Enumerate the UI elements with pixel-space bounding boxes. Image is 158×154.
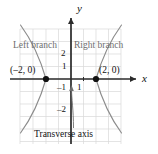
- y-tick-label-neg2: –2: [57, 104, 66, 114]
- vertex-left-dot: [43, 76, 49, 82]
- hyperbola-figure: y x 2 1 –1 –2 1 Left branch Right branch…: [0, 0, 158, 154]
- right-branch-label: Right branch: [74, 40, 123, 50]
- y-tick-label-neg1: –1: [57, 82, 66, 92]
- transverse-axis-label: Transverse axis: [34, 129, 93, 139]
- x-axis-label: x: [142, 72, 147, 84]
- y-axis-label: y: [77, 2, 82, 14]
- vertex-left-label: (–2, 0): [10, 65, 35, 75]
- vertex-right-label: (2, 0): [99, 65, 120, 75]
- y-tick-label-1: 1: [62, 61, 67, 71]
- y-tick-label-2: 2: [61, 48, 66, 58]
- vertex-right-dot: [93, 76, 99, 82]
- x-tick-label-1: 1: [77, 82, 82, 92]
- x-axis: [10, 76, 136, 82]
- left-branch-label: Left branch: [13, 40, 57, 50]
